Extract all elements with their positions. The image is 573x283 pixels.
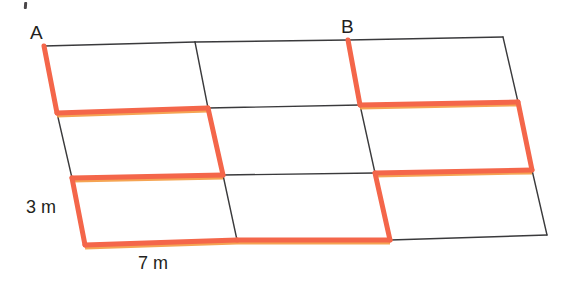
highlight-left-edge-row3 [72, 178, 85, 245]
outline-lines [44, 37, 547, 240]
outline-vline-col4-row3 [532, 170, 547, 235]
outline-vline-col2-row1 [195, 42, 208, 108]
highlight-vline-col4-row2-red [518, 102, 532, 170]
base-length-label: 7 m [138, 254, 168, 272]
vertex-label-a: A [30, 23, 43, 42]
highlight-vline-col3-row3-red [375, 173, 390, 240]
outline-top-row1-col2 [195, 40, 348, 42]
vertex-label-b: B [341, 17, 354, 36]
outline-bottom-row3-col3 [390, 235, 547, 240]
highlight-hline-row3-col1-red [72, 175, 223, 178]
outline-vline-col4-row1 [503, 37, 518, 102]
outline-top-row1-col1 [44, 42, 195, 46]
highlight-vline-colB-row1-red [348, 40, 360, 105]
highlight-path [44, 40, 532, 245]
parallelogram-grid-figure [0, 0, 573, 283]
outline-vline-col3-row2 [360, 105, 375, 173]
outline-vline-col1-row2 [57, 113, 72, 178]
outline-hline-row3-col2 [223, 173, 375, 175]
outline-hline-row2-col2 [208, 105, 360, 108]
side-length-label: 3 m [26, 198, 56, 216]
outline-vline-col2-row3 [223, 175, 237, 240]
highlight-left-edge-row1 [44, 46, 57, 113]
highlight-hline-row3-col3-red [375, 170, 532, 173]
diagram-canvas: A B 3 m 7 m [0, 0, 573, 283]
highlight-hline-row2-col3-red [360, 102, 518, 105]
highlight-vline-col2-row2-red [208, 108, 223, 175]
outline-top-row1-col3 [348, 37, 503, 40]
